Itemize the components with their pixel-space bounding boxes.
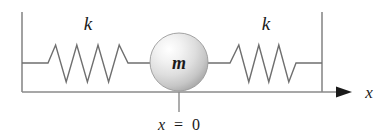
origin-value: 0 (192, 116, 200, 133)
mass-label: m (172, 53, 186, 73)
diagram-canvas: k k m x x = 0 (0, 0, 386, 138)
spring-left (22, 45, 150, 82)
spring-constant-label-right: k (262, 13, 271, 34)
spring-constant-label-left: k (84, 13, 93, 34)
physics-diagram-mass-spring: k k m x x = 0 (0, 0, 386, 138)
origin-equals: = (174, 116, 183, 133)
x-axis-label: x (364, 83, 373, 102)
x-axis-arrowhead (336, 87, 352, 98)
origin-variable: x (157, 116, 165, 133)
spring-right (208, 45, 322, 82)
origin-label: x = 0 (157, 116, 200, 133)
